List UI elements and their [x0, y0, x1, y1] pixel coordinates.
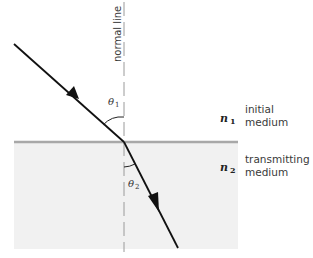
normal-line-label: normal line [112, 6, 123, 62]
initial-medium-label: initial medium [245, 103, 288, 128]
theta1-symbol: θ [108, 96, 114, 107]
n1-subscript: 1 [230, 116, 236, 126]
theta1-label: θ1 [108, 96, 120, 109]
n1-label: n1 [220, 112, 236, 126]
theta2-symbol: θ [128, 178, 134, 189]
transmitting-medium-label: transmitting medium [245, 153, 310, 178]
theta1-subscript: 1 [115, 101, 119, 109]
transmitting-medium-line2: medium [245, 166, 310, 179]
theta2-label: θ2 [128, 178, 140, 191]
initial-medium-line1: initial [245, 103, 288, 116]
n1-symbol: n [220, 112, 228, 125]
refraction-diagram [0, 0, 313, 258]
transmitting-medium-line1: transmitting [245, 153, 310, 166]
theta1-arc [103, 117, 124, 125]
n2-symbol: n [220, 161, 228, 174]
theta2-subscript: 2 [135, 183, 139, 191]
n2-subscript: 2 [230, 165, 236, 175]
initial-medium-line2: medium [245, 116, 288, 129]
n2-label: n2 [220, 161, 236, 175]
transmitting-medium-region [14, 142, 238, 249]
